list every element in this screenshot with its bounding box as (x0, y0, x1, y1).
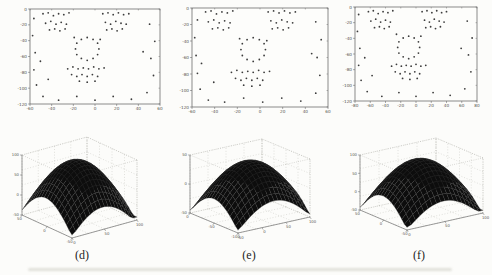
svg-text:-20: -20 (20, 22, 27, 27)
panel-label-d: (d) (62, 248, 102, 263)
svg-text:20: 20 (429, 103, 435, 108)
svg-text:-100: -100 (342, 83, 352, 88)
svg-text:0: 0 (17, 192, 20, 197)
svg-text:20: 20 (114, 106, 120, 111)
svg-text:-20: -20 (345, 20, 352, 25)
svg-text:0: 0 (415, 103, 418, 108)
svg-text:0: 0 (349, 5, 352, 10)
svg-text:0: 0 (355, 189, 358, 194)
scan-smudge-line (28, 268, 452, 271)
svg-text:-40: -40 (48, 106, 55, 111)
svg-text:50: 50 (286, 224, 291, 229)
svg-text:100: 100 (482, 215, 490, 220)
svg-text:20: 20 (280, 109, 286, 114)
svg-text:0: 0 (263, 229, 266, 234)
svg-text:0: 0 (73, 240, 76, 245)
surface-plot-f: 050100-50050100500-50 (344, 124, 492, 248)
svg-text:-60: -60 (189, 109, 196, 114)
svg-text:-20: -20 (234, 109, 241, 114)
svg-text:-60: -60 (367, 103, 374, 108)
svg-text:0: 0 (259, 109, 262, 114)
svg-text:-20: -20 (70, 106, 77, 111)
svg-text:50: 50 (352, 171, 357, 176)
svg-text:50: 50 (14, 172, 19, 177)
svg-text:-120: -120 (342, 99, 352, 104)
svg-text:100: 100 (350, 152, 358, 157)
svg-text:60: 60 (459, 103, 465, 108)
svg-text:100: 100 (309, 219, 317, 224)
svg-text:-20: -20 (182, 22, 189, 27)
svg-text:-40: -40 (382, 103, 389, 108)
svg-text:-50: -50 (351, 207, 358, 212)
svg-text:-40: -40 (20, 38, 27, 43)
surface-plot-d: 050100-50050100500-50 (5, 130, 160, 252)
figure-canvas: -60-40-2002040600-20-40-60-80-100-120 -6… (0, 0, 492, 275)
svg-text:40: 40 (444, 103, 450, 108)
svg-text:-120: -120 (17, 102, 27, 107)
svg-text:-60: -60 (20, 54, 27, 59)
svg-text:-40: -40 (345, 36, 352, 41)
svg-text:-50: -50 (401, 231, 408, 236)
svg-text:-60: -60 (345, 52, 352, 57)
svg-text:-80: -80 (182, 72, 189, 77)
svg-text:0: 0 (186, 6, 189, 11)
svg-text:-80: -80 (352, 103, 359, 108)
svg-text:-100: -100 (231, 234, 240, 239)
scatter-plot-e: -60-40-2002040600-20-40-60-80-100-120 (176, 5, 332, 117)
svg-text:-120: -120 (179, 105, 189, 110)
svg-text:50: 50 (105, 231, 110, 236)
svg-text:100: 100 (136, 222, 144, 227)
svg-text:-80: -80 (345, 67, 352, 72)
svg-text:100: 100 (12, 152, 20, 157)
scatter-plot-f: -80-60-40-200204060800-20-40-60-80-100-1… (339, 4, 481, 110)
svg-text:-40: -40 (182, 39, 189, 44)
svg-text:-20: -20 (397, 103, 404, 108)
svg-text:-50: -50 (66, 239, 73, 244)
svg-text:40: 40 (136, 106, 142, 111)
svg-text:0: 0 (94, 106, 97, 111)
scatter-plot-d: -60-40-2002040600-20-40-60-80-100-120 (14, 6, 164, 112)
svg-text:60: 60 (157, 106, 163, 111)
svg-text:60: 60 (325, 109, 331, 114)
svg-text:-60: -60 (27, 106, 34, 111)
svg-text:0: 0 (185, 181, 188, 186)
svg-text:-50: -50 (181, 210, 188, 215)
svg-text:80: 80 (474, 103, 480, 108)
panel-label-f: (f) (399, 248, 439, 263)
surface-plot-e: -50050100-100-500500-50 (172, 126, 330, 250)
svg-text:-50: -50 (13, 212, 20, 217)
svg-text:40: 40 (303, 109, 309, 114)
svg-text:-100: -100 (179, 88, 189, 93)
svg-text:-80: -80 (20, 70, 27, 75)
svg-text:-40: -40 (211, 109, 218, 114)
svg-text:-100: -100 (17, 86, 27, 91)
svg-text:50: 50 (445, 223, 450, 228)
svg-text:0: 0 (24, 7, 27, 12)
panel-label-e: (e) (229, 248, 269, 263)
svg-text:-60: -60 (182, 55, 189, 60)
svg-text:-50: -50 (208, 224, 215, 229)
svg-text:50: 50 (182, 152, 187, 157)
svg-text:0: 0 (408, 232, 411, 237)
